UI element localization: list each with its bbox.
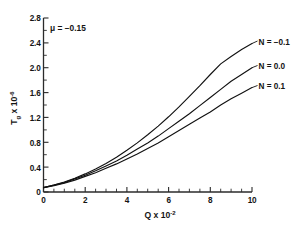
mu-annotation: μ = −0.15 (50, 23, 86, 33)
legend-label-n-0-0: N = 0.0 (259, 62, 286, 71)
x-tick-label: 2 (83, 196, 88, 205)
y-tick-label: 2.0 (30, 64, 41, 73)
legend-label-n-minus-0-1: N = −0.1 (259, 38, 291, 47)
y-tick-label: 0.8 (30, 139, 41, 148)
x-axis-title-main: Q x 10 (144, 210, 170, 220)
y-tick-label: 2.8 (30, 14, 41, 23)
chart-legend: N = −0.1 N = 0.0 N = 0.1 (252, 38, 290, 91)
x-tick-label: 0 (41, 196, 46, 205)
y-tick-label: 0.4 (30, 164, 41, 173)
x-axis-title-exponent: -2 (170, 210, 176, 216)
x-tick-label: 6 (166, 196, 171, 205)
x-tick-label: 4 (125, 196, 130, 205)
y-tick-label: 2.4 (30, 39, 41, 48)
y-tick-label: 1.6 (30, 89, 41, 98)
x-tick-label: 8 (208, 196, 213, 205)
y-tick-label: 1.2 (30, 114, 41, 123)
y-axis-title-exponent: -6 (9, 91, 15, 97)
chart-figure: 0 0.4 0.8 1.2 1.6 2.0 2.4 2.8 Tg x 10-6 (0, 0, 302, 233)
line-chart: 0 0.4 0.8 1.2 1.6 2.0 2.4 2.8 Tg x 10-6 (0, 0, 302, 233)
x-tick-label: 10 (248, 196, 257, 205)
y-axis-title-mid: x 10 (9, 96, 19, 115)
legend-label-n-0-1: N = 0.1 (259, 82, 286, 91)
